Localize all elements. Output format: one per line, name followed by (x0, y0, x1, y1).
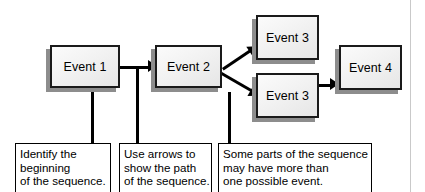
caption-line: beginning (20, 161, 110, 175)
event-box-event-3-bottom[interactable]: Event 3 (256, 73, 319, 118)
caption-line: of the sequence. (124, 174, 211, 188)
caption-box-arrows[interactable]: Use arrows to show the path of the seque… (119, 143, 212, 192)
caption-line: show the path (124, 161, 211, 175)
caption-line: Identify the (20, 147, 110, 161)
event-box-event-3-top[interactable]: Event 3 (256, 15, 319, 60)
arrowhead-event3-event4 (330, 78, 339, 90)
leader-line-branch-to-caption (228, 92, 231, 144)
caption-box-identify[interactable]: Identify the beginning of the sequence. (15, 143, 111, 192)
page-margin-rule (410, 0, 411, 192)
leader-line-event1-to-caption (91, 88, 94, 144)
event-box-label: Event 3 (266, 31, 309, 45)
event-box-label: Event 1 (63, 60, 106, 74)
caption-line: of the sequence. (20, 174, 110, 188)
caption-box-branching[interactable]: Some parts of the sequence may have more… (218, 143, 372, 192)
connector-event1-event2 (120, 66, 151, 69)
event-box-label: Event 3 (266, 89, 309, 103)
leader-line-arrow-to-caption (136, 66, 139, 144)
event-box-event-4[interactable]: Event 4 (339, 45, 402, 90)
event-box-label: Event 2 (167, 60, 210, 74)
event-box-label: Event 4 (349, 61, 392, 75)
event-box-event-2[interactable]: Event 2 (155, 45, 222, 88)
event-box-event-1[interactable]: Event 1 (50, 45, 120, 88)
caption-line: Some parts of the sequence (223, 147, 371, 161)
caption-line: Use arrows to (124, 147, 211, 161)
caption-line: may have more than (223, 161, 371, 175)
caption-line: one possible event. (223, 174, 371, 188)
flowchart-diagram: Event 1 Event 2 Event 3 Event 3 Event 4 … (0, 0, 425, 192)
